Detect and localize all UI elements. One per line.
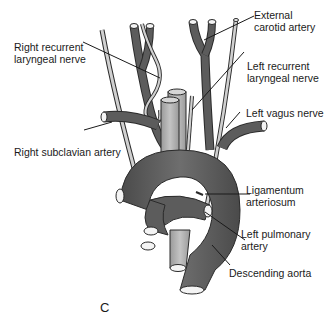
- label-line: carotid artery: [254, 21, 315, 33]
- label-left-vagus-nerve: Left vagus nerve: [246, 107, 324, 119]
- esophagus: [161, 100, 179, 155]
- label-line: Descending aorta: [229, 267, 311, 279]
- label-line: Right recurrent: [14, 41, 86, 53]
- label-ligamentum-arteriosum: Ligamentum arteriosum: [246, 184, 304, 208]
- ligamentum-arteriosum: [196, 192, 203, 195]
- label-line: Left pulmonary: [241, 228, 310, 240]
- label-right-recurrent-laryngeal-nerve: Right recurrent laryngeal nerve: [14, 41, 86, 65]
- label-right-subclavian-artery: Right subclavian artery: [14, 146, 121, 158]
- label-line: laryngeal nerve: [14, 53, 86, 65]
- label-line: Left recurrent: [247, 60, 319, 72]
- pulmonary-tube-light: [170, 230, 190, 268]
- label-line: Ligamentum: [246, 184, 304, 196]
- label-line: External: [254, 9, 315, 21]
- panel-letter: C: [100, 300, 109, 314]
- label-line: arteriosum: [246, 196, 304, 208]
- label-line: artery: [241, 240, 310, 252]
- label-external-carotid-artery: External carotid artery: [254, 9, 315, 33]
- label-line: Left vagus nerve: [246, 107, 324, 119]
- label-descending-aorta: Descending aorta: [229, 267, 311, 279]
- label-line: laryngeal nerve: [247, 72, 319, 84]
- label-left-pulmonary-artery: Left pulmonary artery: [241, 228, 310, 252]
- label-line: Right subclavian artery: [14, 146, 121, 158]
- label-left-recurrent-laryngeal-nerve: Left recurrent laryngeal nerve: [247, 60, 319, 84]
